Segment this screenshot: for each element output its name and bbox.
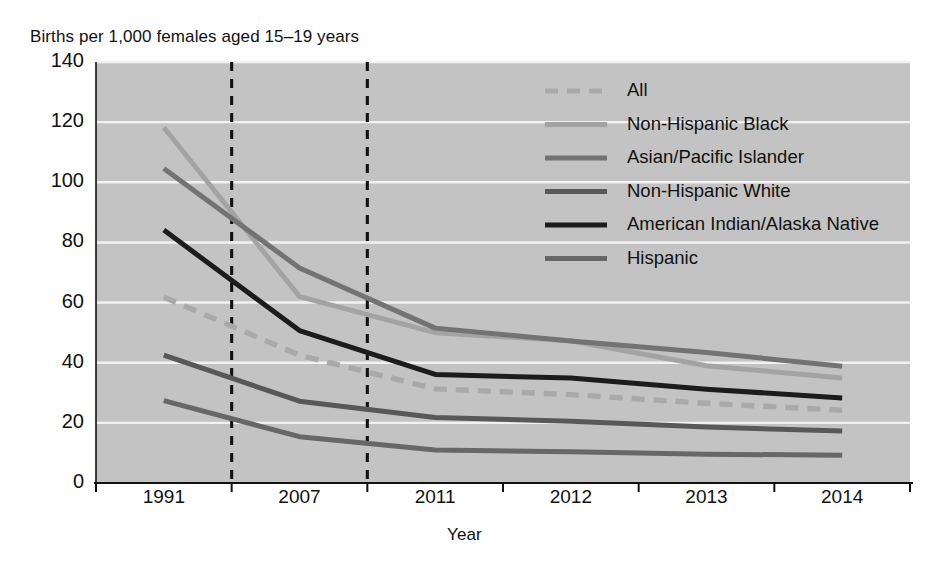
y-axis-tick-label: 120 xyxy=(22,110,84,130)
y-axis-tick-label: 20 xyxy=(22,411,84,431)
legend-item-label: Hispanic xyxy=(627,249,698,268)
legend-item-label: Asian/Pacific Islander xyxy=(627,148,804,167)
plot-area xyxy=(0,0,947,568)
x-axis-tick-label-2014: 2014 xyxy=(782,487,902,506)
y-axis-tick-label: 80 xyxy=(22,230,84,250)
x-axis-tick-label-1991: 1991 xyxy=(104,487,224,506)
teen-birth-rate-line-chart: Births per 1,000 females aged 15–19 year… xyxy=(0,0,947,568)
y-axis-tick-label: 60 xyxy=(22,291,84,311)
x-axis-tick-label-2013: 2013 xyxy=(647,487,767,506)
x-axis-tick-label-2007: 2007 xyxy=(240,487,360,506)
y-axis-tick-label: 40 xyxy=(22,351,84,371)
legend-item-label: Non-Hispanic White xyxy=(627,182,790,201)
y-axis-tick-label: 140 xyxy=(22,50,84,70)
legend-item-label: All xyxy=(627,81,648,100)
y-axis-tick-label: 100 xyxy=(22,170,84,190)
legend-item-label: American Indian/Alaska Native xyxy=(627,215,879,234)
x-axis-tick-label-2012: 2012 xyxy=(511,487,631,506)
x-axis-tick-label-2011: 2011 xyxy=(375,487,495,506)
y-axis-tick-label: 0 xyxy=(22,471,84,491)
legend-item-label: Non-Hispanic Black xyxy=(627,115,788,134)
